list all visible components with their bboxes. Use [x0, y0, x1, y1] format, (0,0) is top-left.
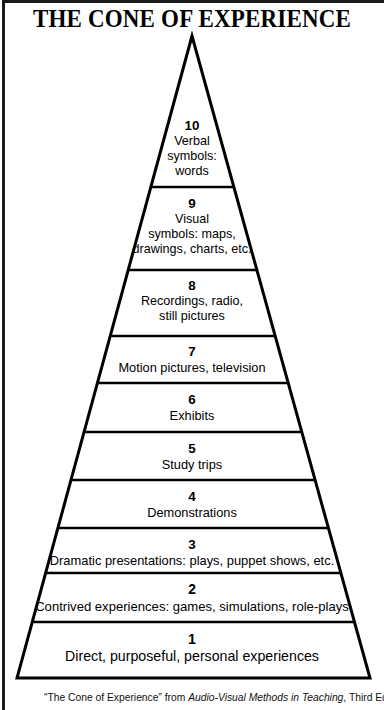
level-number: 5	[46, 441, 338, 457]
level-label-line: still pictures	[78, 309, 306, 324]
pyramid-level-4: 4 Demonstrations	[38, 489, 346, 520]
level-number: 3	[26, 537, 358, 553]
level-number: 2	[18, 582, 366, 599]
level-label-line: Exhibits	[56, 408, 328, 423]
pyramid-level-8: 8 Recordings, radio, still pictures	[78, 278, 306, 324]
caption-text-before: “The Cone of Experience” from	[44, 692, 188, 703]
level-number: 4	[38, 489, 346, 505]
cone-of-experience-figure: THE CONE OF EXPERIENCE 10 Verbal symbols…	[0, 0, 384, 710]
level-label-line: Verbal	[122, 134, 262, 149]
level-label-line: Direct, purposeful, personal experiences	[12, 648, 372, 665]
level-label-line: Study trips	[46, 457, 338, 472]
level-label-line: words	[122, 164, 262, 179]
pyramid-level-1: 1 Direct, purposeful, personal experienc…	[12, 631, 372, 665]
level-label-line: symbols: maps,	[92, 227, 292, 242]
level-label-line: Motion pictures, television	[62, 360, 322, 375]
level-label-line: Visual	[92, 212, 292, 227]
level-label-line: Dramatic presentations: plays, puppet sh…	[26, 553, 358, 568]
pyramid-level-9: 9 Visual symbols: maps, drawings, charts…	[92, 196, 292, 257]
pyramid-level-5: 5 Study trips	[46, 441, 338, 472]
level-number: 10	[122, 118, 262, 134]
level-number: 7	[62, 344, 322, 360]
caption-text-after: , Third Edition by Edgar Dale,	[343, 692, 384, 703]
figure-caption: “The Cone of Experience” from Audio-Visu…	[44, 691, 374, 704]
pyramid-level-6: 6 Exhibits	[56, 392, 328, 423]
level-number: 9	[92, 196, 292, 212]
level-label-line: drawings, charts, etc.	[92, 242, 292, 257]
pyramid-level-10: 10 Verbal symbols: words	[122, 118, 262, 179]
level-label-line: Contrived experiences: games, simulation…	[18, 599, 366, 614]
pyramid-level-2: 2 Contrived experiences: games, simulati…	[18, 582, 366, 614]
caption-source-title: Audio-Visual Methods in Teaching	[188, 692, 343, 703]
level-label-line: Demonstrations	[38, 505, 346, 520]
level-label-line: symbols:	[122, 149, 262, 164]
level-number: 6	[56, 392, 328, 408]
pyramid-level-3: 3 Dramatic presentations: plays, puppet …	[26, 537, 358, 569]
pyramid-level-7: 7 Motion pictures, television	[62, 344, 322, 375]
level-number: 1	[12, 631, 372, 648]
level-number: 8	[78, 278, 306, 294]
level-label-line: Recordings, radio,	[78, 294, 306, 309]
